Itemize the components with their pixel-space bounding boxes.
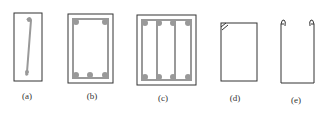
panel-b — [68, 14, 113, 83]
label-d: (d) — [230, 93, 241, 103]
label-e: (e) — [291, 95, 301, 105]
panel-d — [221, 23, 257, 81]
label-b: (b) — [87, 91, 98, 101]
label-a: (a) — [22, 91, 32, 101]
panel-e — [281, 20, 314, 83]
label-c: (c) — [158, 93, 168, 103]
panel-a — [14, 13, 42, 81]
panel-c — [137, 15, 196, 85]
